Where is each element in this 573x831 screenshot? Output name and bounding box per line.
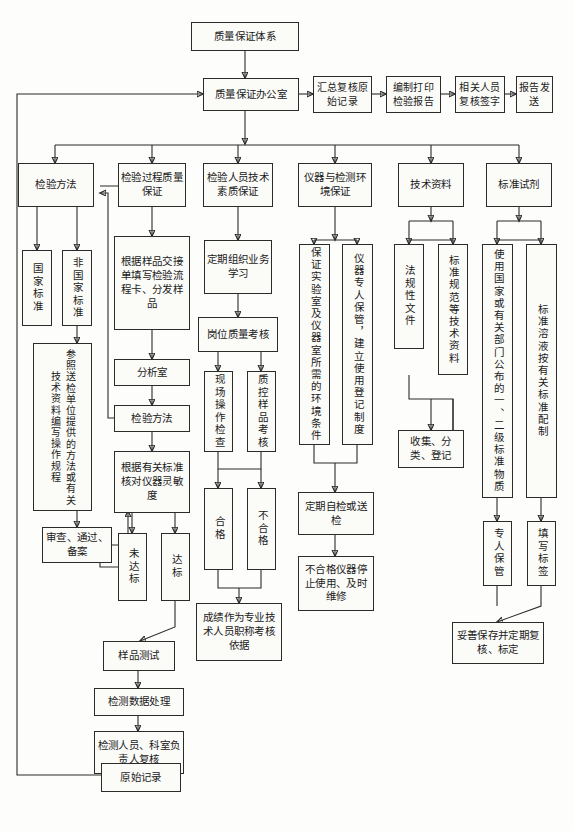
node-non-national-standard[interactable]: 非国家标准 xyxy=(62,250,92,326)
node-legal-docs[interactable]: 法规性文件 xyxy=(394,244,424,349)
node-branch-2[interactable]: 检验人员技术素质保证 xyxy=(203,163,273,207)
flowchart-canvas: 质量保证体系 质量保证办公室 汇总复核原始记录 编制打印检验报告 相关人员复核签… xyxy=(0,0,573,831)
node-standard-solution[interactable]: 标准溶液按有关标准配制 xyxy=(526,244,557,498)
node-report-3[interactable]: 报告发送 xyxy=(516,76,553,113)
node-branch-1[interactable]: 检验过程质量保证 xyxy=(118,163,186,207)
node-collect-classify[interactable]: 收集、分类、登记 xyxy=(398,430,464,468)
node-unqualified-instrument[interactable]: 不合格仪器停止使用、及时维修 xyxy=(298,556,374,611)
node-data-process[interactable]: 检测数据处理 xyxy=(94,688,184,716)
node-analysis-room[interactable]: 分析室 xyxy=(114,359,190,386)
node-use-standard-material[interactable]: 使用国家或有关部门公布的一、二级标准物质 xyxy=(482,244,513,498)
node-root[interactable]: 质量保证体系 xyxy=(191,22,299,51)
node-test-method-2[interactable]: 检验方法 xyxy=(114,405,190,432)
node-self-check[interactable]: 定期自检或送检 xyxy=(298,492,374,535)
node-report-1[interactable]: 编制打印检验报告 xyxy=(386,76,441,113)
node-not-reached[interactable]: 未达标 xyxy=(118,533,147,601)
node-label[interactable]: 填写标签 xyxy=(527,521,556,586)
node-branch-4[interactable]: 技术资料 xyxy=(398,163,464,207)
node-study[interactable]: 定期组织业务学习 xyxy=(204,240,272,294)
node-write-sop[interactable]: 参照送检单位提供的方法或有关技术资料编写操作规程 xyxy=(33,343,92,511)
node-review-archive[interactable]: 审查、通过、备案 xyxy=(42,527,112,563)
node-office[interactable]: 质量保证办公室 xyxy=(203,78,299,111)
node-post-assess[interactable]: 岗位质量考核 xyxy=(198,317,278,352)
node-keeper[interactable]: 专人保管 xyxy=(483,521,512,586)
node-result-basis[interactable]: 成绩作为专业技术人员职称考核依据 xyxy=(196,603,282,661)
node-branch-0[interactable]: 检验方法 xyxy=(18,163,94,207)
node-fail[interactable]: 不合格 xyxy=(247,488,276,570)
node-branch-3[interactable]: 仪器与检测环境保证 xyxy=(298,163,372,207)
node-report-2[interactable]: 相关人员复核签字 xyxy=(455,76,505,113)
node-field-check[interactable]: 现场操作检查 xyxy=(204,371,233,452)
node-qc-sample[interactable]: 质控样品考核 xyxy=(247,371,276,452)
node-store[interactable]: 妥善保存并定期复核、标定 xyxy=(452,622,544,664)
node-sample-test[interactable]: 样品测试 xyxy=(103,641,175,671)
node-branch-5[interactable]: 标准试剂 xyxy=(486,163,552,207)
node-instrument-keeper[interactable]: 仪器专人保管，建立使用登记制度 xyxy=(342,244,373,445)
node-check-sensitivity[interactable]: 根据有关标准核对仪器灵敏度 xyxy=(114,451,190,513)
node-pass[interactable]: 合格 xyxy=(204,488,233,570)
node-national-standard[interactable]: 国家标准 xyxy=(22,250,52,326)
node-fill-flow-card[interactable]: 根据样品交接单填写检验流程卡、分发样品 xyxy=(114,236,190,330)
node-raw-record[interactable]: 原始记录 xyxy=(101,763,181,792)
node-report-0[interactable]: 汇总复核原始记录 xyxy=(313,76,372,113)
node-reached[interactable]: 达标 xyxy=(161,533,190,601)
node-env-condition[interactable]: 保证实验室及仪器室所需的环境条件 xyxy=(299,244,330,445)
node-standard-docs[interactable]: 标准规范等技术资料 xyxy=(438,244,468,375)
